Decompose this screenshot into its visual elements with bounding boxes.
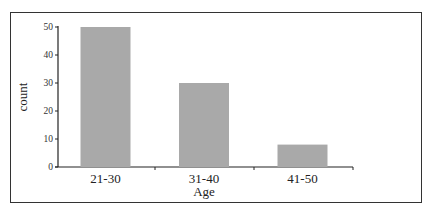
bar-31-40 [179,83,229,167]
y-tick-label: 50 [44,22,54,32]
y-tick-label: 40 [44,50,54,60]
y-axis-title: count [15,82,30,111]
x-axis-title: Age [193,184,215,199]
y-tick-label: 10 [44,134,54,144]
y-tick-label: 30 [44,78,54,88]
bar-chart: 01020304050 21-3031-4041-50 count Age [0,0,433,216]
bars [81,27,328,167]
y-tick-label: 0 [48,162,53,172]
x-tick-label: 21-30 [90,171,120,186]
bar-21-30 [81,27,131,167]
y-axis: 01020304050 [44,22,59,172]
x-tick-label: 41-50 [287,171,317,186]
bar-41-50 [278,145,328,167]
y-tick-label: 20 [44,106,54,116]
